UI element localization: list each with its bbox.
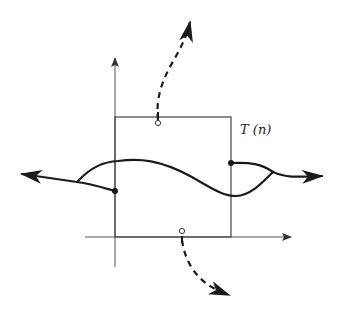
filled-point-left	[112, 188, 118, 194]
filled-point-right	[228, 160, 234, 166]
solid-trajectory-left-branch	[77, 182, 115, 191]
open-point-bottom	[179, 228, 184, 233]
region-box	[115, 117, 231, 237]
region-label: T (n)	[240, 122, 271, 137]
region-diagram: T (n)	[0, 0, 339, 313]
open-point-top	[155, 120, 160, 125]
left-outgoing-arrow	[22, 174, 77, 182]
right-outgoing-arrow	[273, 172, 322, 177]
solid-trajectory-main	[77, 160, 273, 196]
solid-trajectory-right-branch	[231, 163, 273, 172]
dashed-escape-down	[182, 240, 229, 295]
dashed-escape-up	[157, 22, 190, 120]
